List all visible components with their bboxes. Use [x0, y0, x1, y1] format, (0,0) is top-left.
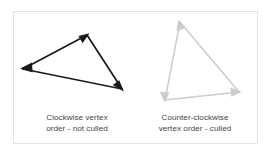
caption-clockwise-line2: order - not culled [19, 123, 135, 134]
caption-counter-clockwise: Counter-clockwise vertex order - culled [137, 112, 253, 134]
clockwise-triangle [20, 33, 124, 91]
counter-clockwise-arrowhead-top-icon [176, 20, 185, 31]
counter-clockwise-triangle [160, 20, 242, 103]
clockwise-arrowhead-top-icon [79, 33, 90, 43]
counter-clockwise-edge-bottomleft-to-right [165, 92, 239, 100]
caption-clockwise: Clockwise vertex order - not culled [19, 112, 135, 134]
counter-clockwise-edge-right-to-top [180, 22, 239, 92]
clockwise-edge-top-to-bottomright [87, 35, 122, 89]
clockwise-edge-bottomright-to-left [23, 69, 122, 89]
caption-counter-clockwise-line2: vertex order - culled [137, 123, 253, 134]
clockwise-arrowhead-left-icon [20, 63, 32, 73]
clockwise-edge-left-to-top [23, 35, 87, 69]
figure-root: Clockwise vertex order - not culled Coun… [0, 0, 271, 156]
clockwise-arrowhead-bottomright-icon [113, 80, 124, 91]
caption-counter-clockwise-line1: Counter-clockwise [137, 112, 253, 123]
counter-clockwise-edge-top-to-bottomleft [165, 22, 180, 100]
counter-clockwise-arrowhead-bottomleft-icon [160, 92, 169, 103]
caption-clockwise-line1: Clockwise vertex [19, 112, 135, 123]
